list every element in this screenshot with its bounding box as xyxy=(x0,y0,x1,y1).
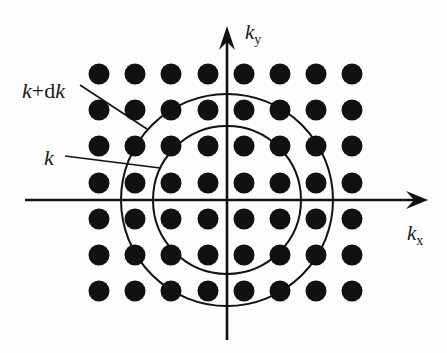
lattice-point xyxy=(89,245,110,266)
lattice-point xyxy=(234,281,255,302)
lattice-point xyxy=(234,100,255,121)
kx-label: kx xyxy=(407,221,423,248)
lattice-point xyxy=(270,100,291,121)
lattice-point xyxy=(342,173,363,194)
k-space-diagram: ky kx k+dk k xyxy=(0,0,447,353)
lattice-point xyxy=(234,64,255,85)
lattice-point xyxy=(342,245,363,266)
lattice-point xyxy=(198,100,219,121)
lattice-point xyxy=(198,281,219,302)
lattice-point xyxy=(270,245,291,266)
lattice-point xyxy=(89,281,110,302)
lattice-point xyxy=(234,136,255,157)
k-label: k xyxy=(44,145,55,170)
lattice-point xyxy=(306,136,327,157)
leader-lines xyxy=(65,85,160,168)
lattice-point xyxy=(270,136,291,157)
diagram-svg: ky kx k+dk k xyxy=(0,0,447,353)
axes xyxy=(25,26,428,340)
lattice-point xyxy=(306,281,327,302)
lattice-point xyxy=(125,64,146,85)
lattice-point xyxy=(125,209,146,230)
lattice-points xyxy=(89,64,363,302)
lattice-point xyxy=(198,245,219,266)
lattice-point xyxy=(198,209,219,230)
lattice-point xyxy=(306,64,327,85)
lattice-point xyxy=(125,100,146,121)
lattice-point xyxy=(270,173,291,194)
lattice-point xyxy=(342,100,363,121)
lattice-point xyxy=(89,64,110,85)
lattice-point xyxy=(125,173,146,194)
lattice-point xyxy=(306,173,327,194)
lattice-point xyxy=(234,173,255,194)
lattice-point xyxy=(125,281,146,302)
k-plus-dk-label: k+dk xyxy=(22,78,66,103)
lattice-point xyxy=(270,209,291,230)
lattice-point xyxy=(89,136,110,157)
lattice-point xyxy=(342,136,363,157)
lattice-point xyxy=(161,209,182,230)
lattice-point xyxy=(306,209,327,230)
lattice-point xyxy=(161,64,182,85)
lattice-point xyxy=(234,245,255,266)
lattice-point xyxy=(306,245,327,266)
lattice-point xyxy=(270,64,291,85)
lattice-point xyxy=(342,209,363,230)
lattice-point xyxy=(198,136,219,157)
lattice-point xyxy=(198,64,219,85)
lattice-point xyxy=(198,173,219,194)
leader-line-k xyxy=(65,156,160,168)
lattice-point xyxy=(161,136,182,157)
lattice-point xyxy=(89,209,110,230)
lattice-point xyxy=(306,100,327,121)
ky-label: ky xyxy=(245,20,261,47)
lattice-point xyxy=(234,209,255,230)
lattice-point xyxy=(342,64,363,85)
lattice-point xyxy=(161,173,182,194)
lattice-point xyxy=(89,173,110,194)
lattice-point xyxy=(342,281,363,302)
